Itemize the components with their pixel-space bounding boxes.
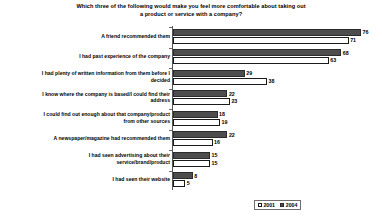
bar-2004: 68 <box>173 49 382 56</box>
category-label: I had past experience of the company <box>2 53 170 59</box>
bar-2004: 29 <box>173 70 382 77</box>
bar-row: I know where the company is based/I coul… <box>0 88 382 109</box>
bar-row: I could find out enough about that compa… <box>0 108 382 129</box>
bar-2001: 71 <box>173 37 382 44</box>
bar-rect-2001 <box>173 139 213 146</box>
bar-2001: 15 <box>173 160 382 167</box>
category-label-line: decided <box>2 77 170 83</box>
bar-value-label: 22 <box>229 132 235 139</box>
bar-row: I had plenty of written information from… <box>0 67 382 88</box>
dark-square-icon <box>280 203 284 207</box>
bar-rect-2004 <box>173 131 227 138</box>
bar-row: I had seen advertising about theirservic… <box>0 149 382 170</box>
bar-2004: 76 <box>173 29 382 36</box>
axis-tick <box>169 171 172 172</box>
axis-tick <box>169 130 172 131</box>
bar-rows: A friend recommended them7671I had past … <box>0 26 382 190</box>
chart-title: Which three of the following would make … <box>36 3 346 18</box>
bar-rect-2001 <box>173 57 329 64</box>
bar-value-label: 15 <box>212 160 218 167</box>
bar-2001: 5 <box>173 180 382 187</box>
bar-rect-2004 <box>173 29 361 36</box>
bar-rect-2004 <box>173 172 193 179</box>
category-label-line: service/brand/product <box>2 159 170 165</box>
bar-rect-2001 <box>173 78 267 85</box>
bar-2001: 23 <box>173 98 382 105</box>
axis-tick <box>169 68 172 69</box>
bar-value-label: 71 <box>350 37 356 44</box>
category-label-line: I had seen their website <box>2 176 170 182</box>
bar-rect-2001 <box>173 119 220 126</box>
chart-legend: 2001 2004 <box>254 200 301 210</box>
category-label-line: I had past experience of the company <box>2 53 170 59</box>
bar-rect-2004 <box>173 49 341 56</box>
category-label: I had seen their website <box>2 176 170 182</box>
bar-2001: 16 <box>173 139 382 146</box>
bar-value-label: 29 <box>246 70 252 77</box>
bar-2004: 8 <box>173 172 382 179</box>
bar-value-label: 5 <box>187 180 190 187</box>
axis-tick <box>169 48 172 49</box>
category-label: A friend recommended them <box>2 33 170 39</box>
bar-value-label: 15 <box>212 152 218 159</box>
legend-label-2004: 2004 <box>286 202 298 208</box>
bar-rect-2001 <box>173 180 185 187</box>
white-square-icon <box>258 203 262 207</box>
category-label-line: A friend recommended them <box>2 33 170 39</box>
category-label: I had plenty of written information from… <box>2 70 170 83</box>
bar-2004: 18 <box>173 111 382 118</box>
axis-tick <box>169 89 172 90</box>
bar-value-label: 18 <box>219 111 225 118</box>
bar-2004: 22 <box>173 131 382 138</box>
bar-2001: 19 <box>173 119 382 126</box>
bar-value-label: 23 <box>231 98 237 105</box>
bar-value-label: 8 <box>194 173 197 180</box>
bar-row: I had past experience of the company6863 <box>0 47 382 68</box>
legend-item-2004[interactable]: 2004 <box>280 202 297 208</box>
bar-rect-2004 <box>173 111 218 118</box>
legend-label-2001: 2001 <box>263 202 275 208</box>
bar-value-label: 22 <box>229 91 235 98</box>
bar-chart: Which three of the following would make … <box>0 0 382 217</box>
legend-item-2001[interactable]: 2001 <box>258 202 275 208</box>
bar-row: I had seen their website85 <box>0 170 382 191</box>
bar-value-label: 16 <box>214 139 220 146</box>
chart-title-line-2: a product or service with a company? <box>36 11 346 19</box>
bar-rect-2004 <box>173 70 245 77</box>
category-label-line: from other sources <box>2 118 170 124</box>
category-label: A newspaper/magazine had recommended the… <box>2 135 170 141</box>
bar-rect-2001 <box>173 160 210 167</box>
bar-rect-2001 <box>173 98 230 105</box>
category-label: I could find out enough about that compa… <box>2 111 170 124</box>
category-label: I know where the company is based/I coul… <box>2 91 170 104</box>
bar-rect-2004 <box>173 152 210 159</box>
bar-value-label: 63 <box>330 57 336 64</box>
bar-value-label: 76 <box>363 29 369 36</box>
plot-area: A friend recommended them7671I had past … <box>0 26 382 190</box>
category-label-line: A newspaper/magazine had recommended the… <box>2 135 170 141</box>
bar-2004: 15 <box>173 152 382 159</box>
bar-row: A newspaper/magazine had recommended the… <box>0 129 382 150</box>
category-label-line: address <box>2 97 170 103</box>
bar-2001: 38 <box>173 78 382 85</box>
bar-2001: 63 <box>173 57 382 64</box>
bar-rect-2004 <box>173 90 227 97</box>
bar-2004: 22 <box>173 90 382 97</box>
bar-row: A friend recommended them7671 <box>0 26 382 47</box>
bar-rect-2001 <box>173 37 349 44</box>
bar-value-label: 38 <box>269 78 275 85</box>
bar-value-label: 68 <box>343 50 349 57</box>
chart-title-line-1: Which three of the following would make … <box>36 3 346 11</box>
bar-value-label: 19 <box>222 119 228 126</box>
axis-tick <box>169 109 172 110</box>
category-label: I had seen advertising about theirservic… <box>2 152 170 165</box>
axis-tick <box>169 150 172 151</box>
axis-tick <box>169 27 172 28</box>
